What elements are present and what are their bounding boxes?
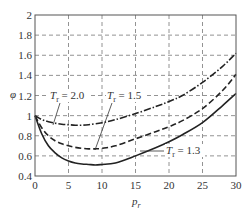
y-tick-label: 1.2	[18, 90, 32, 102]
annotation-value: = 2.0	[59, 89, 85, 101]
annotation-value: = 1.5	[116, 89, 142, 101]
x-axis-label-sub: r	[138, 201, 142, 210]
y-tick-labels: 0.40.60.811.21.41.61.82	[18, 9, 32, 182]
annotations: Tr = 2.0Tr = 1.5Tr = 1.3	[49, 89, 205, 159]
y-tick-label: 0.4	[18, 170, 32, 182]
x-axis-label: pr	[131, 195, 142, 210]
annotation-value: = 1.3	[175, 144, 201, 156]
y-axis-label: φ	[10, 88, 16, 100]
y-tick-label: 1	[27, 110, 33, 122]
x-tick-label: 5	[66, 179, 72, 191]
x-tick-label: 10	[97, 179, 109, 191]
x-tick-label: 30	[231, 179, 243, 191]
x-tick-label: 20	[164, 179, 176, 191]
y-tick-label: 0.8	[18, 130, 32, 142]
chart: 0.40.60.811.21.41.61.82 051015202530 Tr …	[0, 0, 247, 211]
y-tick-label: 0.6	[18, 150, 32, 162]
x-tick-label: 25	[197, 179, 209, 191]
x-tick-label: 15	[130, 179, 142, 191]
x-tick-labels: 051015202530	[32, 179, 242, 191]
x-tick-label: 0	[32, 179, 38, 191]
annotation-leader-line	[53, 103, 60, 125]
annotation-leader-line	[95, 103, 112, 150]
y-tick-label: 2	[27, 9, 33, 21]
y-tick-label: 1.6	[18, 49, 32, 61]
y-tick-label: 1.4	[18, 69, 32, 81]
y-tick-label: 1.8	[18, 29, 32, 41]
